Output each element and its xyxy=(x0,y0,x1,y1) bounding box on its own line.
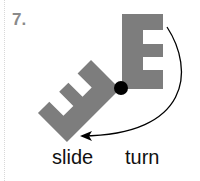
pivot-point xyxy=(114,81,128,95)
option-turn[interactable]: turn xyxy=(125,146,159,169)
transformation-figure xyxy=(0,0,200,181)
original-e-shape xyxy=(122,14,163,89)
rotated-e-shape xyxy=(38,60,120,142)
option-slide[interactable]: slide xyxy=(52,146,93,169)
